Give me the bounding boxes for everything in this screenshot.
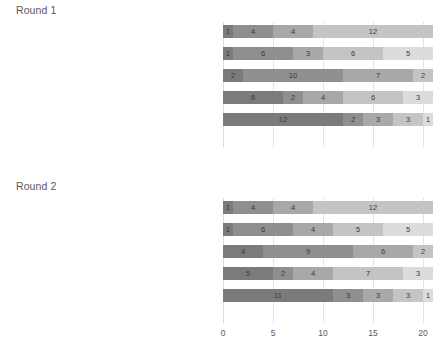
bar-segment: 12 xyxy=(313,25,433,38)
bar-segment: 6 xyxy=(233,47,293,60)
bar-segment: 2 xyxy=(413,69,433,82)
bar-segment: 1 xyxy=(223,25,233,38)
bar-segment: 10 xyxy=(243,69,343,82)
bar-segment: 12 xyxy=(313,201,433,214)
bar-segment: 7 xyxy=(343,69,413,82)
bar-segment: 5 xyxy=(333,223,383,236)
bar-row: S7: “OCHOTA MARKET” – SHOP14412 xyxy=(223,25,433,38)
bar-segment: 12 xyxy=(223,113,343,126)
bar-segment: 6 xyxy=(323,47,383,60)
bar-segment: 4 xyxy=(223,245,263,258)
bar-segment: 3 xyxy=(403,91,433,104)
bar-segment: 3 xyxy=(393,289,423,302)
bar-segment: 5 xyxy=(383,47,433,60)
bar-segment: 4 xyxy=(273,201,313,214)
bar-segment: 2 xyxy=(223,69,243,82)
plot-area-round-2: S7: “OCHOTA MARKET” – SHOP14412S3: “MUSE… xyxy=(223,198,433,323)
bar-row: S3: “MUSEUM WKD OCHOTA” – INTERACTIVE MU… xyxy=(223,223,433,236)
bar-row: S4: “ART OCHOTA” – SMALL ART GALLERY2107… xyxy=(223,69,433,82)
bar-segment: 3 xyxy=(363,113,393,126)
bar-row: S4: “ART OCHOTA” – SMALL ART GALLERY4962 xyxy=(223,245,433,258)
bar-segment: 2 xyxy=(283,91,303,104)
stacked-bar: 16365 xyxy=(223,47,433,60)
bar-segment: 1 xyxy=(423,289,433,302)
bar-segment: 3 xyxy=(403,267,433,280)
chart-panel-round-2: Round 2 S7: “OCHOTA MARKET” – SHOP14412S… xyxy=(0,176,438,347)
bar-row: S1: STATUS QUO – RENOVATION ONLY52473 xyxy=(223,267,433,280)
stacked-bar: 16455 xyxy=(223,223,433,236)
bar-segment: 6 xyxy=(353,245,413,258)
chart-panel-round-1: Round 1 S7: “OCHOTA MARKET” – SHOP14412S… xyxy=(0,0,438,176)
stacked-bar: 62463 xyxy=(223,91,433,104)
bar-segment: 5 xyxy=(223,267,273,280)
bar-segment: 11 xyxy=(223,289,333,302)
stacked-bar: 14412 xyxy=(223,25,433,38)
x-axis-tick-labels: 05101520 xyxy=(223,328,433,342)
bar-row: S3: “MUSEUM WKD OCHOTA” – INTERACTIVE MU… xyxy=(223,47,433,60)
bar-segment: 1 xyxy=(223,47,233,60)
stacked-bar: 21072 xyxy=(223,69,433,82)
stacked-bar: 113331 xyxy=(223,289,433,302)
x-tick-label-15: 15 xyxy=(368,328,377,338)
bar-rows-round-2: S7: “OCHOTA MARKET” – SHOP14412S3: “MUSE… xyxy=(223,198,433,323)
bar-row: S2: “CLUB CAFÉ OCHOTA”122331 xyxy=(223,113,433,126)
bar-segment: 1 xyxy=(223,201,233,214)
bar-segment: 4 xyxy=(233,25,273,38)
bar-segment: 2 xyxy=(273,267,293,280)
bar-rows-round-1: S7: “OCHOTA MARKET” – SHOP14412S3: “MUSE… xyxy=(223,22,433,147)
bar-segment: 6 xyxy=(223,91,283,104)
x-tick-label-10: 10 xyxy=(318,328,327,338)
stacked-bar: 52473 xyxy=(223,267,433,280)
bar-segment: 4 xyxy=(273,25,313,38)
bar-segment: 1 xyxy=(423,113,433,126)
bar-segment: 4 xyxy=(293,267,333,280)
bar-segment: 4 xyxy=(303,91,343,104)
bar-segment: 2 xyxy=(413,245,433,258)
bar-segment: 3 xyxy=(293,47,323,60)
bar-segment: 4 xyxy=(293,223,333,236)
bar-segment: 2 xyxy=(343,113,363,126)
stacked-bar-chart-figure: Round 1 S7: “OCHOTA MARKET” – SHOP14412S… xyxy=(0,0,438,347)
stacked-bar: 4962 xyxy=(223,245,433,258)
bar-segment: 3 xyxy=(393,113,423,126)
bar-segment: 3 xyxy=(363,289,393,302)
bar-segment: 7 xyxy=(333,267,403,280)
bar-segment: 6 xyxy=(233,223,293,236)
bar-row: S1: STATUS QUO – RENOVATION ONLY62463 xyxy=(223,91,433,104)
bar-row: S2: “CLUB CAFÉ OCHOTA”113331 xyxy=(223,289,433,302)
x-tick-label-5: 5 xyxy=(271,328,276,338)
panel-title-round-2: Round 2 xyxy=(16,180,56,192)
stacked-bar: 122331 xyxy=(223,113,433,126)
panel-title-round-1: Round 1 xyxy=(16,4,56,16)
bar-segment: 9 xyxy=(263,245,353,258)
stacked-bar: 14412 xyxy=(223,201,433,214)
bar-segment: 1 xyxy=(223,223,233,236)
bar-segment: 6 xyxy=(343,91,403,104)
x-tick-label-20: 20 xyxy=(418,328,427,338)
bar-segment: 5 xyxy=(383,223,433,236)
plot-area-round-1: S7: “OCHOTA MARKET” – SHOP14412S3: “MUSE… xyxy=(223,22,433,147)
bar-segment: 4 xyxy=(233,201,273,214)
bar-segment: 3 xyxy=(333,289,363,302)
bar-row: S7: “OCHOTA MARKET” – SHOP14412 xyxy=(223,201,433,214)
x-tick-label-0: 0 xyxy=(221,328,226,338)
